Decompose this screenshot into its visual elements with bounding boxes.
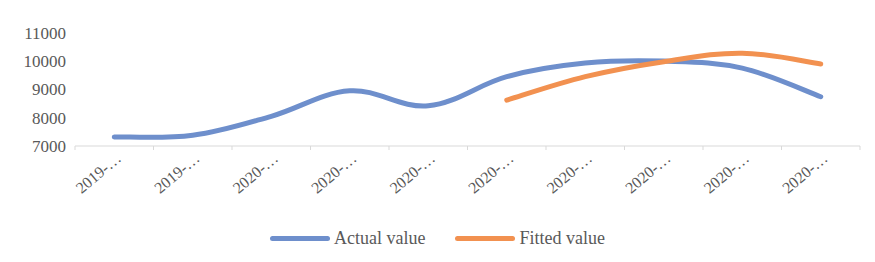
legend-item-actual: Actual value bbox=[270, 228, 425, 249]
x-tick-label: 2020-… bbox=[700, 149, 752, 196]
fitted-line-swatch-icon bbox=[455, 236, 515, 241]
y-tick-label: 10000 bbox=[24, 52, 67, 71]
y-tick-label: 7000 bbox=[32, 137, 66, 156]
y-axis: 7000800090001000011000 bbox=[24, 24, 67, 156]
legend: Actual value Fitted value bbox=[270, 228, 605, 249]
y-tick-label: 9000 bbox=[32, 80, 66, 99]
x-tick-label: 2019-… bbox=[72, 149, 124, 196]
x-tick-label: 2020-… bbox=[543, 149, 595, 196]
series-line-actual-value bbox=[114, 61, 821, 138]
actual-line-swatch-icon bbox=[270, 236, 330, 241]
line-chart: 7000800090001000011000 2019-…2019-…2020-… bbox=[0, 0, 875, 262]
y-tick-label: 11000 bbox=[24, 24, 66, 43]
x-tick-label: 2019-… bbox=[151, 149, 203, 196]
x-tick-label: 2020-… bbox=[622, 149, 674, 196]
x-axis: 2019-…2019-…2020-…2020-…2020-…2020-…2020… bbox=[72, 146, 860, 197]
x-tick-label: 2020-… bbox=[386, 149, 438, 196]
legend-label-actual: Actual value bbox=[334, 228, 425, 249]
x-tick-label: 2020-… bbox=[229, 149, 281, 196]
plot-area bbox=[114, 53, 821, 137]
x-tick-label: 2020-… bbox=[308, 149, 360, 196]
legend-item-fitted: Fitted value bbox=[455, 228, 604, 249]
legend-label-fitted: Fitted value bbox=[519, 228, 604, 249]
x-tick-label: 2020-… bbox=[779, 149, 831, 196]
x-tick-label: 2020-… bbox=[465, 149, 517, 196]
y-tick-label: 8000 bbox=[32, 109, 66, 128]
